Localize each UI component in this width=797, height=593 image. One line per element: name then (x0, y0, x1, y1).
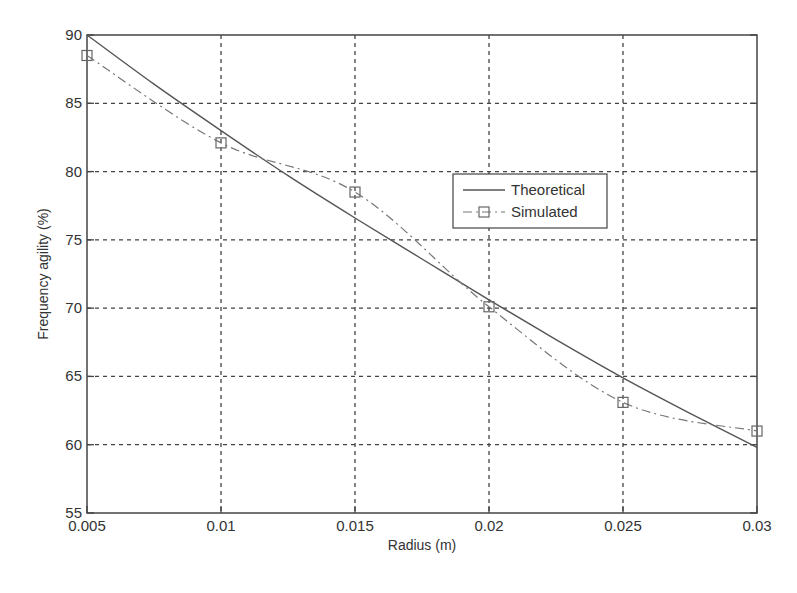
grid-lines (87, 35, 757, 513)
series-line-theoretical (87, 35, 757, 447)
legend: Theoretical Simulated (453, 174, 607, 228)
y-tick-label: 70 (65, 299, 82, 316)
x-tick-label: 0.025 (604, 517, 642, 534)
x-tick-label: 0.03 (742, 517, 771, 534)
x-tick-label: 0.02 (474, 517, 503, 534)
y-axis-label: Frequency agility (%) (35, 208, 51, 340)
plot-area-frame (87, 35, 757, 513)
y-tick-label: 90 (65, 26, 82, 43)
series-line-simulated (87, 55, 757, 431)
axis-ticks (87, 35, 757, 513)
chart: 0.0050.010.0150.020.0250.03 556065707580… (0, 0, 797, 593)
x-axis-label: Radius (m) (388, 537, 456, 553)
y-tick-label: 55 (65, 504, 82, 521)
x-tick-labels: 0.0050.010.0150.020.0250.03 (68, 517, 771, 534)
legend-label-simulated: Simulated (511, 203, 578, 220)
x-tick-label: 0.01 (206, 517, 235, 534)
y-tick-label: 80 (65, 163, 82, 180)
y-tick-label: 60 (65, 436, 82, 453)
y-tick-label: 65 (65, 367, 82, 384)
series-layer (82, 35, 762, 447)
legend-label-theoretical: Theoretical (511, 181, 585, 198)
x-tick-label: 0.015 (336, 517, 374, 534)
y-tick-label: 85 (65, 94, 82, 111)
y-tick-labels: 5560657075808590 (65, 26, 82, 521)
y-tick-label: 75 (65, 231, 82, 248)
